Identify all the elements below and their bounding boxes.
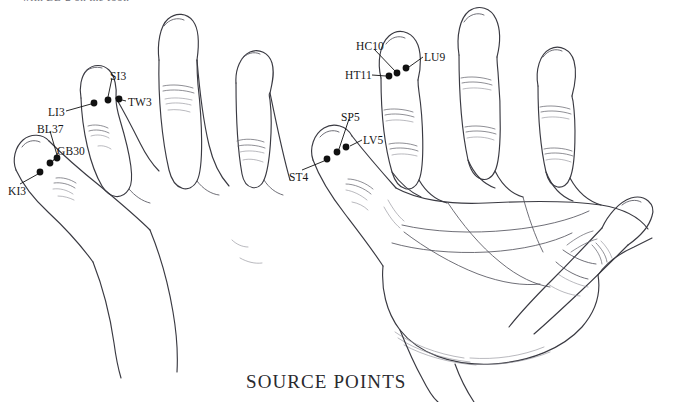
acupoint-dot-lu9[interactable]: [403, 65, 410, 72]
acupoint-label-bl37: BL37: [37, 124, 64, 136]
acupoint-dot-hc10[interactable]: [394, 70, 401, 77]
clipped-top-text: with BL-2 on the foot.: [22, 0, 129, 3]
acupoint-dot-ht11[interactable]: [386, 73, 393, 80]
leader-line-ki3: [20, 174, 38, 184]
acupoint-dot-sp5[interactable]: [334, 149, 341, 156]
acupoint-dot-si3[interactable]: [105, 97, 112, 104]
hands-illustration: .ln { fill:none; stroke:#3a3a42; stroke-…: [0, 0, 679, 402]
acupoint-label-ki3: KI3: [8, 186, 26, 198]
figure-caption: SOURCE POINTS: [246, 371, 407, 393]
acupoint-label-tw3: TW3: [128, 97, 152, 109]
acupoint-dot-gb30[interactable]: [47, 160, 54, 167]
acupoint-label-ht11: HT11: [345, 70, 372, 82]
acupoint-label-hc10: HC10: [356, 41, 384, 53]
leader-line-tw3: [122, 100, 126, 101]
figure-canvas: .ln { fill:none; stroke:#3a3a42; stroke-…: [0, 0, 679, 402]
acupoint-label-si3: SI3: [110, 71, 126, 83]
acupoint-label-li3: LI3: [48, 107, 65, 119]
acupoint-label-sp5: SP5: [341, 112, 360, 124]
acupoint-label-lv5: LV5: [363, 135, 383, 147]
acupoint-dot-tw3[interactable]: [116, 96, 123, 103]
acupoint-label-lu9: LU9: [424, 52, 445, 64]
leader-line-st4: [302, 161, 324, 170]
acupoint-dot-st4[interactable]: [324, 156, 331, 163]
leader-line-ht11: [372, 75, 386, 76]
left-hand-outline: [14, 14, 290, 378]
acupoint-label-gb30: GB30: [57, 146, 85, 158]
acupoint-dot-lv5[interactable]: [343, 144, 350, 151]
right-hand-outline: [312, 8, 653, 402]
acupoint-label-st4: ST4: [289, 172, 308, 184]
acupoint-dot-li3[interactable]: [91, 100, 98, 107]
acupoint-dot-ki3[interactable]: [37, 169, 44, 176]
leader-line-li3: [66, 104, 91, 111]
